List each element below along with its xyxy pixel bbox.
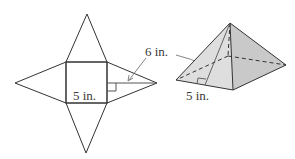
net-top-triangle xyxy=(66,14,107,62)
pyramid-net xyxy=(15,14,157,153)
net-base-label: 5 in. xyxy=(73,88,96,103)
pyramid-figure: 5 in. 6 in. 5 in. xyxy=(0,0,295,159)
pyramid-right-face xyxy=(230,23,286,90)
pyramid-front-face xyxy=(176,23,233,90)
net-right-angle-mark xyxy=(107,83,116,91)
net-left-triangle xyxy=(15,62,66,103)
net-bottom-triangle xyxy=(66,103,107,153)
pyramid-base-label: 5 in. xyxy=(186,88,209,103)
slant-height-label: 6 in. xyxy=(145,44,168,59)
pyramid-3d xyxy=(176,23,286,90)
